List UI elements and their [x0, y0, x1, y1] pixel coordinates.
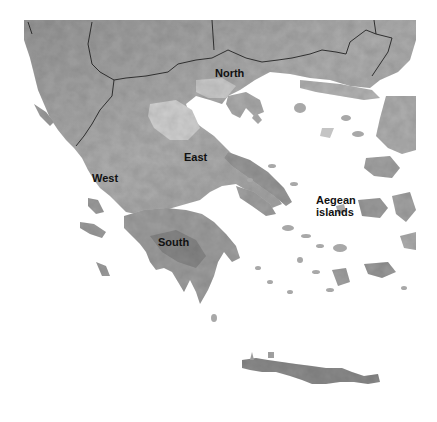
- relief-map: [0, 0, 437, 422]
- mainland: [24, 20, 416, 214]
- region-label-west: West: [92, 172, 118, 184]
- region-label-north: North: [215, 67, 244, 79]
- east-aegean-land: [332, 96, 416, 286]
- region-label-east: East: [184, 151, 207, 163]
- peloponnese: [124, 208, 240, 304]
- region-label-aegean-islands: Aegean islands: [316, 194, 356, 218]
- crete: [242, 352, 380, 384]
- region-label-south: South: [158, 236, 189, 248]
